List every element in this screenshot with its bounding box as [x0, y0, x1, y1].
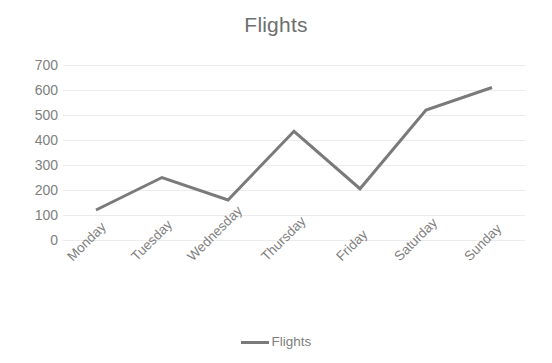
y-tick-label: 200 — [6, 183, 58, 197]
line-chart: Flights 0100200300400500600700 MondayTue… — [0, 0, 552, 363]
y-tick-label: 600 — [6, 83, 58, 97]
y-tick-label: 0 — [6, 233, 58, 247]
chart-title: Flights — [0, 12, 552, 38]
x-axis: MondayTuesdayWednesdayThursdayFridaySatu… — [63, 240, 525, 330]
y-tick-label: 700 — [6, 58, 58, 72]
legend-label-flights: Flights — [272, 334, 312, 350]
y-tick-label: 400 — [6, 133, 58, 147]
legend-line-swatch-flights — [241, 341, 269, 344]
y-tick-label: 500 — [6, 108, 58, 122]
y-tick-label: 100 — [6, 208, 58, 222]
plot-area — [63, 65, 525, 240]
chart-legend: Flights — [0, 334, 552, 350]
series-flights — [63, 65, 525, 240]
y-axis: 0100200300400500600700 — [0, 0, 58, 363]
series-line-flights — [96, 88, 492, 211]
y-tick-label: 300 — [6, 158, 58, 172]
